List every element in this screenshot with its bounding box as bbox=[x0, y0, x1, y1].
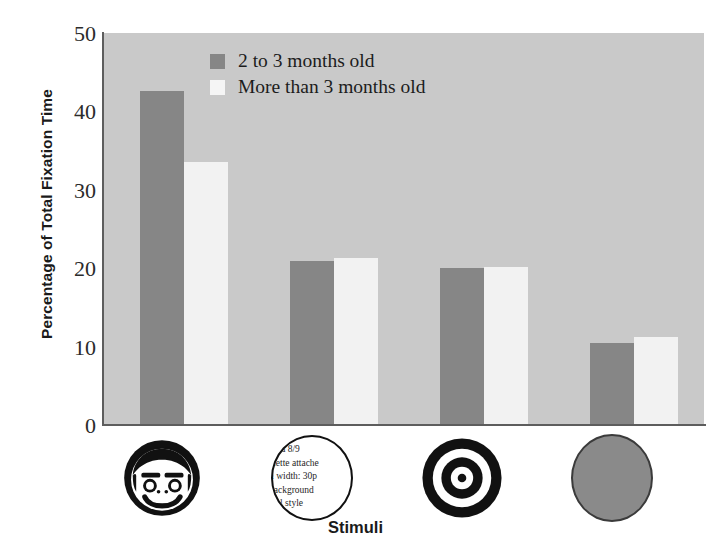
text-circle-line-4: background bbox=[271, 484, 353, 498]
y-tick-label-10: 10 bbox=[50, 335, 96, 361]
bar-textcircle-morethan3 bbox=[334, 258, 378, 425]
bar-plaincircle-2to3months bbox=[590, 343, 634, 425]
text-circle-shape: nma 8/9 alette attache n width: 30p back… bbox=[271, 435, 353, 521]
face-stimulus-icon bbox=[116, 432, 208, 524]
x-axis-line bbox=[102, 424, 706, 426]
y-tick-label-20: 20 bbox=[50, 256, 96, 282]
legend-swatch-icon-dark bbox=[210, 54, 225, 69]
legend-label-2to3months: 2 to 3 months old bbox=[238, 50, 375, 72]
y-tick-label-0: 0 bbox=[50, 413, 96, 439]
stimuli-icon-row: nma 8/9 alette attache n width: 30p back… bbox=[104, 432, 704, 528]
gray-circle-icon bbox=[571, 434, 653, 522]
y-tick-label-50: 50 bbox=[50, 21, 96, 47]
legend-swatch-icon-light bbox=[210, 80, 225, 95]
plain-circle-stimulus-icon bbox=[566, 432, 658, 524]
legend-entry-2to3months: 2 to 3 months old bbox=[210, 48, 425, 74]
bullseye-target-icon bbox=[419, 434, 505, 522]
bar-face-morethan3 bbox=[184, 162, 228, 425]
bar-bullseye-2to3months bbox=[440, 268, 484, 425]
bar-group-bullseye bbox=[440, 33, 528, 425]
x-axis-title: Stimuli bbox=[0, 518, 711, 537]
bar-plaincircle-morethan3 bbox=[634, 337, 678, 425]
bar-textcircle-2to3months bbox=[290, 261, 334, 425]
text-circle-stimulus-icon: nma 8/9 alette attache n width: 30p back… bbox=[266, 432, 358, 524]
bar-bullseye-morethan3 bbox=[484, 267, 528, 425]
legend-entry-morethan3months: More than 3 months old bbox=[210, 74, 425, 100]
text-circle-line-3: n width: 30p bbox=[271, 470, 353, 484]
legend-label-morethan3months: More than 3 months old bbox=[238, 76, 425, 98]
text-circle-line-1: nma 8/9 bbox=[271, 443, 353, 457]
bar-chart-figure: Percentage of Total Fixation Time 50 40 … bbox=[0, 0, 711, 555]
bar-group-plain-circle bbox=[590, 33, 678, 425]
y-axis-tick-labels: 50 40 30 20 10 0 bbox=[48, 0, 96, 430]
y-tick-label-40: 40 bbox=[50, 99, 96, 125]
text-circle-text: nma 8/9 alette attache n width: 30p back… bbox=[271, 443, 353, 511]
bullseye-stimulus-icon bbox=[416, 432, 508, 524]
smiley-face-icon bbox=[119, 435, 205, 521]
y-tick-label-30: 30 bbox=[50, 178, 96, 204]
bar-face-2to3months bbox=[140, 91, 184, 425]
text-circle-line-2: alette attache bbox=[271, 457, 353, 471]
chart-legend: 2 to 3 months old More than 3 months old bbox=[210, 48, 425, 100]
text-circle-line-5: ical style bbox=[271, 497, 353, 511]
